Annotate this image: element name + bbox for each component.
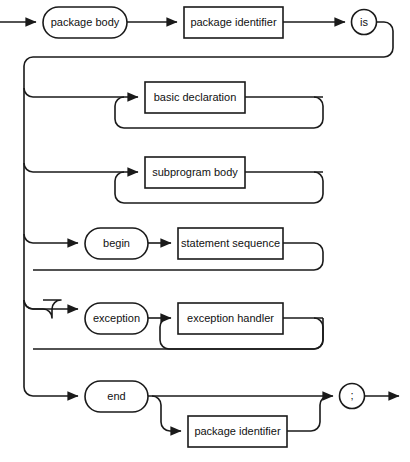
- node-end-label: end: [107, 390, 125, 402]
- branch-begin-statement-sequence: begin statement sequence: [24, 228, 323, 270]
- branch-optional-package-identifier: package identifier: [152, 396, 329, 447]
- node-package-body-label: package body: [51, 16, 120, 28]
- node-basic-declaration-label: basic declaration: [154, 91, 237, 103]
- node-is: is: [352, 10, 377, 35]
- left-spine-rail: [24, 57, 78, 396]
- node-package-identifier-tail-label: package identifier: [194, 425, 281, 437]
- node-exception-handler-label: exception handler: [187, 312, 274, 324]
- node-subprogram-body-label: subprogram body: [152, 166, 238, 178]
- branch-basic-declaration: basic declaration: [24, 82, 323, 128]
- node-package-body: package body: [43, 7, 127, 38]
- node-semicolon: ;: [340, 384, 365, 409]
- node-package-identifier-head-label: package identifier: [190, 16, 277, 28]
- node-exception-label: exception: [93, 312, 140, 324]
- node-end: end: [85, 381, 148, 412]
- node-is-label: is: [360, 16, 368, 28]
- node-statement-sequence-label: statement sequence: [181, 237, 280, 249]
- node-package-identifier-head: package identifier: [184, 7, 283, 38]
- branch-exception-handler: exception exception handler: [24, 300, 323, 349]
- node-semicolon-label: ;: [350, 389, 353, 401]
- branch-subprogram-body: subprogram body: [24, 157, 323, 203]
- node-begin-label: begin: [103, 237, 130, 249]
- syntax-diagram-package-body: package body package identifier is basic…: [0, 0, 410, 462]
